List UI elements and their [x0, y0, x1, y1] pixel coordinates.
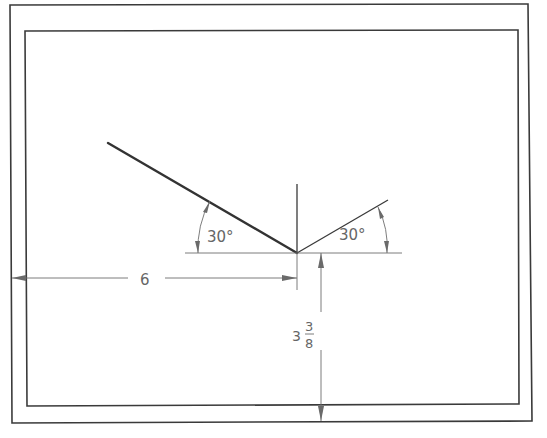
vertical-dimension-denominator: 8 [305, 336, 313, 351]
horizontal-dim-arrow-right [282, 275, 297, 281]
left-angle-label: 30° [207, 228, 234, 246]
vertical-dim-arrow-top [318, 253, 324, 268]
right-arc-arrow-top [378, 207, 384, 219]
outer-border [10, 4, 532, 423]
right-arc-arrow-bottom [384, 241, 389, 253]
horizontal-dim-arrow-left [12, 275, 26, 281]
technical-drawing: 30° 30° 6 3 3 8 [0, 0, 547, 438]
left-arc-arrow-top [203, 201, 210, 213]
vertical-dimension-whole: 3 [292, 328, 301, 344]
right-angle-label: 30° [339, 226, 366, 244]
vertical-dim-arrow-bottom [318, 406, 324, 421]
inner-frame [25, 30, 519, 406]
vertical-dimension-numerator: 3 [305, 319, 313, 334]
left-inclined-line [108, 143, 297, 253]
horizontal-dimension-label: 6 [140, 271, 150, 289]
